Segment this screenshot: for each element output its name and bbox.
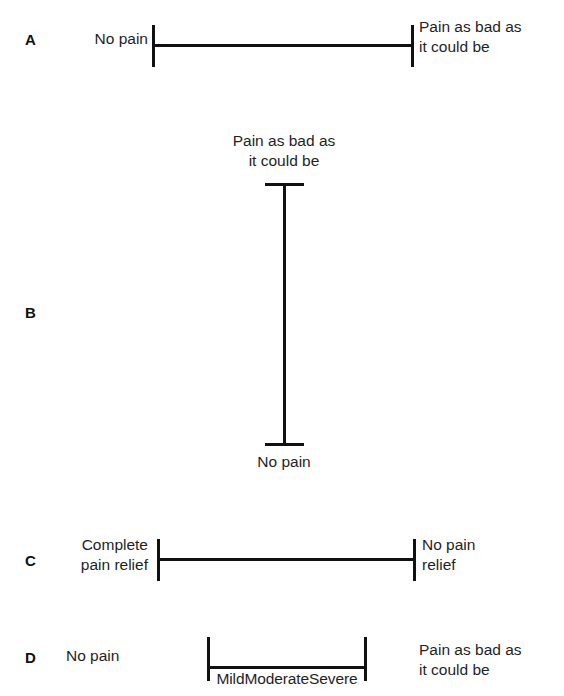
panel-d-letter: D: [25, 650, 36, 665]
pain-scales-figure: A No pain Pain as bad as it could be B P…: [0, 0, 564, 696]
panel-c-left-label: Complete pain relief: [48, 535, 148, 575]
panel-c-scale-line: [157, 558, 416, 561]
panel-b-top-label: Pain as bad as it could be: [199, 131, 369, 171]
panel-a-left-label: No pain: [58, 29, 148, 49]
panel-d-left-label: No pain: [66, 646, 166, 666]
panel-b-scale-line: [283, 183, 286, 446]
panel-d-scale-words: MildModerateSevere: [204, 669, 370, 689]
panel-b-bottom-endcap: [265, 443, 304, 446]
panel-a-right-endcap: [411, 25, 414, 67]
panel-a-letter: A: [25, 32, 36, 47]
panel-c-letter: C: [25, 553, 36, 568]
panel-a-right-label: Pain as bad as it could be: [419, 17, 559, 57]
panel-c-right-label: No pain relief: [422, 535, 552, 575]
panel-b-bottom-label: No pain: [199, 452, 369, 472]
panel-b-letter: B: [25, 305, 36, 320]
panel-d-right-label: Pain as bad as it could be: [419, 640, 559, 680]
panel-c-right-endcap: [413, 539, 416, 581]
panel-a-scale-line: [152, 44, 414, 47]
